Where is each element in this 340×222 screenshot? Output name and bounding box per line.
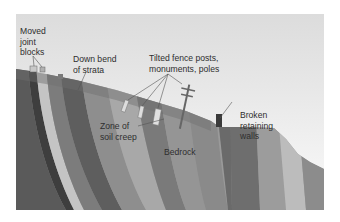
label-moved-joint-blocks: Moved joint blocks	[20, 26, 46, 58]
strata-layers	[16, 64, 324, 210]
joint-block	[30, 66, 37, 72]
retaining-wall	[216, 114, 222, 127]
label-tilted-objects: Tilted fence posts, monuments, poles	[149, 53, 219, 74]
joint-block	[58, 74, 63, 79]
hillslope-cross-section	[16, 14, 324, 210]
label-zone-of-soil-creep: Zone of soil creep	[100, 121, 137, 142]
soil-creep-diagram: Moved joint blocks Down bend of strata T…	[16, 14, 324, 210]
joint-block	[40, 67, 45, 72]
label-down-bend-of-strata: Down bend of strata	[73, 54, 116, 75]
label-bedrock: Bedrock	[164, 147, 196, 158]
label-broken-retaining-walls: Broken retaining walls	[240, 110, 273, 142]
